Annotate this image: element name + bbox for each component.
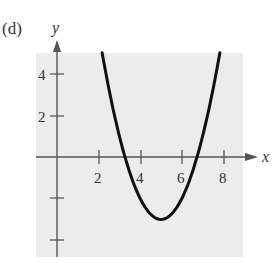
x-tick-label: 6 [177,170,185,186]
x-tick-label: 2 [94,170,102,186]
y-axis-label: y [50,19,60,37]
x-axis-label: x [261,148,269,165]
y-axis-arrow-icon [53,40,61,52]
y-tick-label: 4 [38,67,46,83]
y-tick-label: 2 [38,109,46,125]
x-axis-arrow-icon [245,153,258,161]
chart: (d) y x 2 4 6 8 4 2 [0,0,274,263]
plot-background [36,53,243,257]
panel-label: (d) [2,19,22,38]
x-tick-label: 4 [136,170,144,186]
x-tick-label: 8 [219,170,227,186]
